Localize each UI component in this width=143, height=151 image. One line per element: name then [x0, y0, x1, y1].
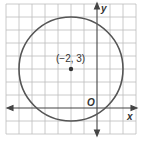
y-axis-label: y — [100, 3, 107, 14]
coordinate-plane: (−2, 3) y x O — [0, 0, 143, 151]
x-axis-label: x — [126, 111, 133, 122]
center-label: (−2, 3) — [56, 53, 85, 64]
x-axis — [7, 106, 137, 111]
origin-label: O — [87, 97, 95, 108]
center-point — [69, 67, 73, 71]
